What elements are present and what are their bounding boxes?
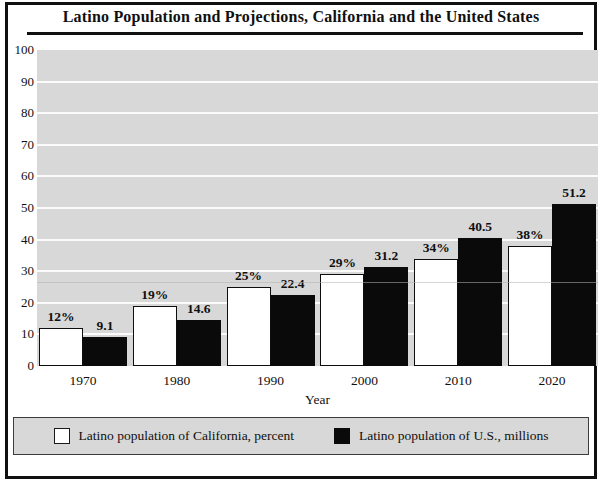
bar-group-2020: 38%51.2 [508,50,596,366]
bar-slot: 51.2 [552,50,596,366]
bar-value-label: 9.1 [97,318,114,334]
us-bar-2020 [552,204,596,366]
y-tick-label-20: 20 [8,295,34,311]
bar-group-2010: 34%40.5 [414,50,502,366]
x-tick-label-1990: 1990 [227,373,315,389]
y-axis-labels: 0102030405060708090100 [8,50,34,366]
bar-group-1970: 12%9.1 [39,50,127,366]
y-tick-label-50: 50 [8,200,34,216]
us-bar-1970 [83,337,127,366]
bar-slot: 29% [320,50,364,366]
y-tick-label-40: 40 [8,232,34,248]
legend-item-california: Latino population of California, percent [54,428,295,444]
california-bar-2020 [508,246,552,366]
bar-groups: 12%9.119%14.625%22.429%31.234%40.538%51.… [37,50,598,366]
y-tick-label-10: 10 [8,326,34,342]
figure-page: Latino Population and Projections, Calif… [0,0,609,484]
x-tick-label-2010: 2010 [414,373,502,389]
bar-slot: 38% [508,50,552,366]
bar-value-label: 29% [329,255,356,271]
bar-value-label: 14.6 [187,301,211,317]
bar-slot: 40.5 [458,50,502,366]
x-tick-label-1970: 1970 [39,373,127,389]
california-bar-2010 [414,259,458,366]
california-bar-1980 [133,306,177,366]
x-axis-labels: 197019801990200020102020 [37,373,598,389]
y-tick-label-0: 0 [8,358,34,374]
bar-group-1990: 25%22.4 [227,50,315,366]
legend: Latino population of California, percent… [13,417,589,455]
bar-slot: 22.4 [271,50,315,366]
california-bar-1970 [39,328,83,366]
chart-title: Latino Population and Projections, Calif… [8,8,594,26]
us-bar-1990 [271,295,315,366]
bar-value-label: 40.5 [468,219,492,235]
bar-group-2000: 29%31.2 [320,50,408,366]
y-tick-label-90: 90 [8,74,34,90]
legend-item-us: Latino population of U.S., millions [334,428,548,444]
black-swatch-icon [334,428,350,444]
title-rule [27,32,583,35]
bar-value-label: 38% [516,227,543,243]
bar-slot: 31.2 [364,50,408,366]
bar-slot: 25% [227,50,271,366]
x-tick-label-2020: 2020 [508,373,596,389]
legend-label-us: Latino population of U.S., millions [359,428,548,444]
bar-slot: 9.1 [83,50,127,366]
y-tick-label-80: 80 [8,105,34,121]
y-tick-label-70: 70 [8,137,34,153]
y-tick-label-30: 30 [8,263,34,279]
x-tick-label-2000: 2000 [320,373,408,389]
x-axis-title: Year [37,392,598,408]
bar-value-label: 34% [423,240,450,256]
us-bar-1980 [177,320,221,366]
bar-slot: 14.6 [177,50,221,366]
white-swatch-icon [54,428,70,444]
bar-slot: 19% [133,50,177,366]
bar-group-1980: 19%14.6 [133,50,221,366]
y-tick-label-60: 60 [8,168,34,184]
bar-value-label: 31.2 [375,248,399,264]
plot-area: 12%9.119%14.625%22.429%31.234%40.538%51.… [37,50,598,366]
bar-value-label: 51.2 [562,185,586,201]
california-bar-1990 [227,287,271,366]
us-bar-2010 [458,238,502,366]
bar-value-label: 12% [48,309,75,325]
bar-slot: 34% [414,50,458,366]
bar-value-label: 22.4 [281,276,305,292]
bar-value-label: 19% [141,287,168,303]
california-bar-2000 [320,274,364,366]
bar-slot: 12% [39,50,83,366]
scan-artifact-line [37,282,598,283]
legend-label-california: Latino population of California, percent [79,428,295,444]
x-tick-label-1980: 1980 [133,373,221,389]
chart-frame: Latino Population and Projections, Calif… [5,2,597,479]
y-tick-label-100: 100 [8,42,34,58]
